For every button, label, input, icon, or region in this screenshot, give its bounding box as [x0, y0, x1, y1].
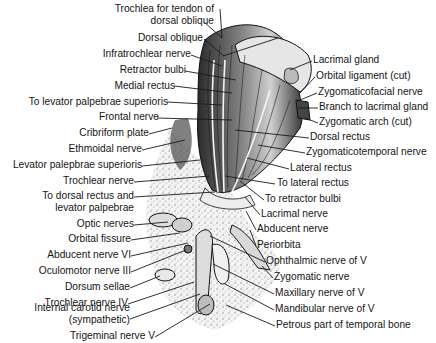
label-orbital-fissure: Orbital fissure	[68, 233, 131, 244]
label-to-levator-palpebrae-superioris: To levator palpebrae superioris	[29, 96, 168, 107]
label-ethmoidal-nerve: Ethmoidal nerve	[68, 143, 142, 154]
label-retractor-bulbi: Retractor bulbi	[120, 64, 186, 75]
lacrimal-gland	[284, 68, 298, 84]
label-optic-nerves: Optic nerves	[77, 218, 134, 229]
label-to-lateral-rectus: To lateral rectus	[277, 177, 349, 188]
label-zygomaticotemporal-nerve: Zygomaticotemporal nerve	[306, 146, 427, 157]
trigeminal-root	[198, 295, 214, 315]
label-zygomatic-nerve: Zygomatic nerve	[274, 271, 349, 282]
label-dorsal-rectus: Dorsal rectus	[310, 131, 370, 142]
zygomatic-arch	[296, 100, 310, 120]
label-periorbita: Periorbita	[257, 239, 301, 250]
label-lacrimal-gland: Lacrimal gland	[313, 54, 379, 65]
label-levator-palpebrae-superioris: Levator palepbrae superioris	[13, 159, 142, 170]
label-cribriform-plate: Cribriform plate	[79, 127, 149, 138]
label-ophthalmic-nerve-of-v: Ophthalmic nerve of V	[266, 255, 367, 266]
label-lateral-rectus: Lateral rectus	[290, 162, 352, 173]
oculomotor-nerve-cut	[184, 245, 192, 253]
dorsum-sellae	[155, 269, 175, 281]
label-infratrochlear-nerve: Infratrochlear nerve	[103, 48, 191, 59]
label-lacrimal-nerve: Lacrimal nerve	[261, 208, 328, 219]
label-internal-carotid-line2: (sympathetic)	[69, 314, 130, 325]
label-to-dorsal-rectus-line1: To dorsal rectus and	[42, 190, 134, 201]
label-trochlea-line2: dorsal oblique	[151, 15, 214, 26]
label-to-retractor-bulbi: To retractor bulbi	[265, 193, 341, 204]
label-frontal-nerve: Frontal nerve	[99, 111, 159, 122]
label-dorsum-sellae: Dorsum sellae	[65, 281, 130, 292]
label-internal-carotid-line1: Internal carotid nerve	[34, 302, 130, 313]
label-branch-to-lacrimal-gland: Branch to lacrimal gland	[319, 101, 428, 112]
optic-nerve-right	[172, 218, 192, 232]
label-trochlear-nerve: Trochlear nerve	[63, 175, 134, 186]
label-zygomatic-arch: Zygomatic arch (cut)	[319, 116, 412, 127]
label-oculomotor-nerve-iii: Oculomotor nerve III	[39, 265, 131, 276]
label-mandibular-nerve-of-v: Mandibular nerve of V	[275, 303, 375, 314]
label-trigeminal-nerve-v: Trigeminal nerve V	[70, 330, 155, 341]
label-trochlea-line1: Trochlea for tendon of	[115, 3, 214, 14]
label-medial-rectus: Medial rectus	[114, 80, 175, 91]
label-maxillary-nerve-of-v: Maxillary nerve of V	[275, 287, 364, 298]
label-abducent-nerve-vi: Abducent nerve VI	[47, 249, 131, 260]
label-zygomaticofacial-nerve: Zygomaticofacial nerve	[318, 86, 423, 97]
label-to-dorsal-rectus-line2: levator palpebrae	[55, 202, 134, 213]
label-orbital-ligament: Orbital ligament (cut)	[316, 70, 411, 81]
label-petrous-part-temporal-bone: Petrous part of temporal bone	[276, 319, 411, 330]
label-abducent-nerve: Abducent nerve	[257, 223, 328, 234]
label-dorsal-oblique: Dorsal oblique	[138, 32, 203, 43]
